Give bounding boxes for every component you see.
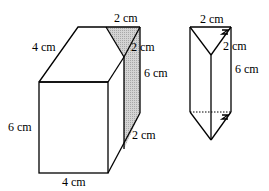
label-front-height: 6 cm (8, 120, 32, 134)
prism-label-height: 6 cm (235, 62, 259, 76)
prism-bottom-left-slant (190, 112, 211, 140)
prism-label-triangle-side: 2 cm (223, 39, 247, 53)
label-shaded-height: 6 cm (144, 66, 168, 80)
label-slant-depth: 4 cm (32, 40, 56, 54)
label-top-length: 2 cm (114, 11, 138, 25)
diagram-canvas: 2 cm 4 cm 2 cm 6 cm 6 cm 4 cm 2 cm 2 cm … (0, 0, 269, 191)
prism-label-top-length: 2 cm (200, 12, 224, 26)
label-triangle-side: 2 cm (131, 40, 155, 54)
front-face (39, 82, 108, 173)
label-front-width: 4 cm (62, 175, 86, 189)
top-right-slant (108, 57, 124, 82)
prism-bottom-right-slant (211, 112, 231, 140)
prism-top-left-slant (190, 27, 211, 55)
label-bottom-slant: 2 cm (132, 128, 156, 142)
